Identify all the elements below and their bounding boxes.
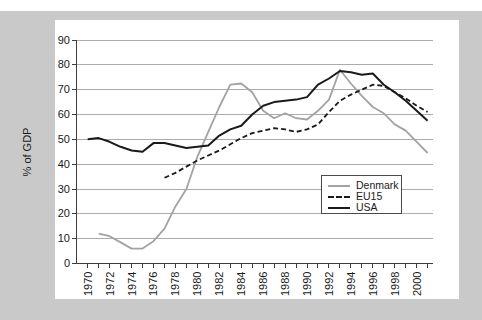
svg-text:60: 60 bbox=[58, 108, 70, 120]
x-axis-tick-labels: 1970197219741976197819801982198419861988… bbox=[82, 272, 423, 296]
svg-text:70: 70 bbox=[58, 83, 70, 95]
svg-text:1976: 1976 bbox=[147, 272, 159, 296]
y-axis-title: % of GDP bbox=[21, 128, 33, 177]
svg-text:1992: 1992 bbox=[323, 272, 335, 296]
svg-text:1978: 1978 bbox=[169, 272, 181, 296]
svg-text:0: 0 bbox=[64, 257, 70, 269]
screenshot-root: 0102030405060708090 19701972197419761978… bbox=[0, 0, 482, 320]
denmark-line-swatch bbox=[328, 185, 350, 187]
svg-text:1974: 1974 bbox=[126, 272, 138, 296]
svg-text:1970: 1970 bbox=[82, 272, 94, 296]
usa-line-swatch bbox=[328, 207, 350, 209]
svg-text:10: 10 bbox=[58, 232, 70, 244]
svg-text:1998: 1998 bbox=[389, 272, 401, 296]
series-line-denmark bbox=[99, 70, 428, 249]
svg-text:50: 50 bbox=[58, 133, 70, 145]
svg-text:1996: 1996 bbox=[367, 272, 379, 296]
svg-text:1984: 1984 bbox=[235, 272, 247, 296]
svg-text:80: 80 bbox=[58, 58, 70, 70]
data-series bbox=[88, 70, 428, 249]
eu15-line-swatch bbox=[328, 196, 350, 198]
line-chart: 0102030405060708090 19701972197419761978… bbox=[0, 0, 482, 320]
svg-text:40: 40 bbox=[58, 158, 70, 170]
svg-text:1972: 1972 bbox=[104, 272, 116, 296]
svg-text:1980: 1980 bbox=[191, 272, 203, 296]
svg-text:2000: 2000 bbox=[411, 272, 423, 296]
svg-text:1990: 1990 bbox=[301, 272, 313, 296]
svg-text:1994: 1994 bbox=[345, 272, 357, 296]
svg-text:90: 90 bbox=[58, 34, 70, 46]
svg-text:1988: 1988 bbox=[279, 272, 291, 296]
svg-text:1982: 1982 bbox=[213, 272, 225, 296]
svg-text:20: 20 bbox=[58, 207, 70, 219]
axes bbox=[72, 40, 434, 268]
y-axis-tick-labels: 0102030405060708090 bbox=[58, 34, 70, 270]
svg-text:1986: 1986 bbox=[257, 272, 269, 296]
legend-item-usa: USA bbox=[328, 202, 396, 213]
svg-text:30: 30 bbox=[58, 183, 70, 195]
legend-label-usa: USA bbox=[356, 202, 378, 213]
legend: Denmark EU15 USA bbox=[321, 175, 402, 214]
